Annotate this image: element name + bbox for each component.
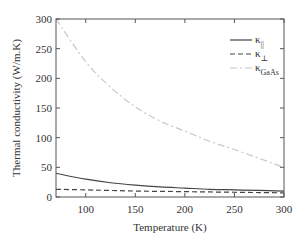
y-tick-label: 200: [36, 72, 53, 84]
series-line-2: [56, 19, 284, 167]
y-axis-ticks: 050100150200250300: [36, 13, 285, 203]
y-tick-label: 0: [47, 191, 53, 203]
plot-lines: [56, 19, 284, 193]
y-tick-label: 50: [41, 161, 53, 173]
y-tick-label: 250: [36, 43, 53, 55]
x-tick-label: 150: [127, 203, 144, 215]
x-tick-label: 250: [226, 203, 243, 215]
y-tick-label: 300: [36, 13, 53, 25]
plot-frame: [56, 19, 284, 197]
x-tick-label: 200: [177, 203, 194, 215]
x-axis-label: Temperature (K): [133, 221, 207, 234]
legend-label: κGaAs: [255, 61, 279, 77]
legend: κ||κ⊥κGaAs: [230, 33, 279, 77]
y-tick-label: 100: [36, 132, 53, 144]
y-tick-label: 150: [36, 102, 53, 114]
x-tick-label: 100: [77, 203, 94, 215]
thermal-conductivity-chart: 100150200250300 050100150200250300 Tempe…: [0, 0, 305, 240]
y-axis-label: Thermal conductivity (W/m.K): [10, 39, 23, 177]
x-tick-label: 300: [276, 203, 293, 215]
series-line-0: [56, 173, 284, 191]
